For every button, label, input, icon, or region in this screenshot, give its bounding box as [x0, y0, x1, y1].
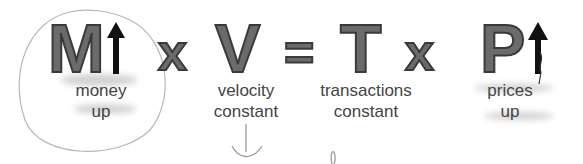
label-money-up: up	[56, 101, 146, 122]
symbol-prices: P	[480, 14, 525, 82]
operator-multiply: x	[158, 26, 187, 78]
label-velocity-constant: constant	[196, 101, 296, 122]
arrow-up-icon	[527, 22, 549, 86]
arrow-down-velocity-icon	[232, 124, 262, 157]
label-money: money	[56, 80, 146, 101]
operator-equals: =	[284, 26, 314, 78]
symbol-velocity: V	[215, 14, 260, 82]
label-transactions: transactions	[306, 80, 426, 101]
label-prices: prices	[470, 80, 550, 101]
label-prices-up: up	[470, 101, 550, 122]
symbol-money: M	[48, 14, 105, 82]
symbol-transactions: T	[340, 14, 382, 82]
arrow-up-icon	[106, 22, 126, 74]
label-velocity: velocity	[196, 80, 296, 101]
operator-multiply: x	[405, 26, 434, 78]
pencil-mark-transactions-icon	[331, 152, 335, 164]
label-transactions-constant: constant	[306, 101, 426, 122]
